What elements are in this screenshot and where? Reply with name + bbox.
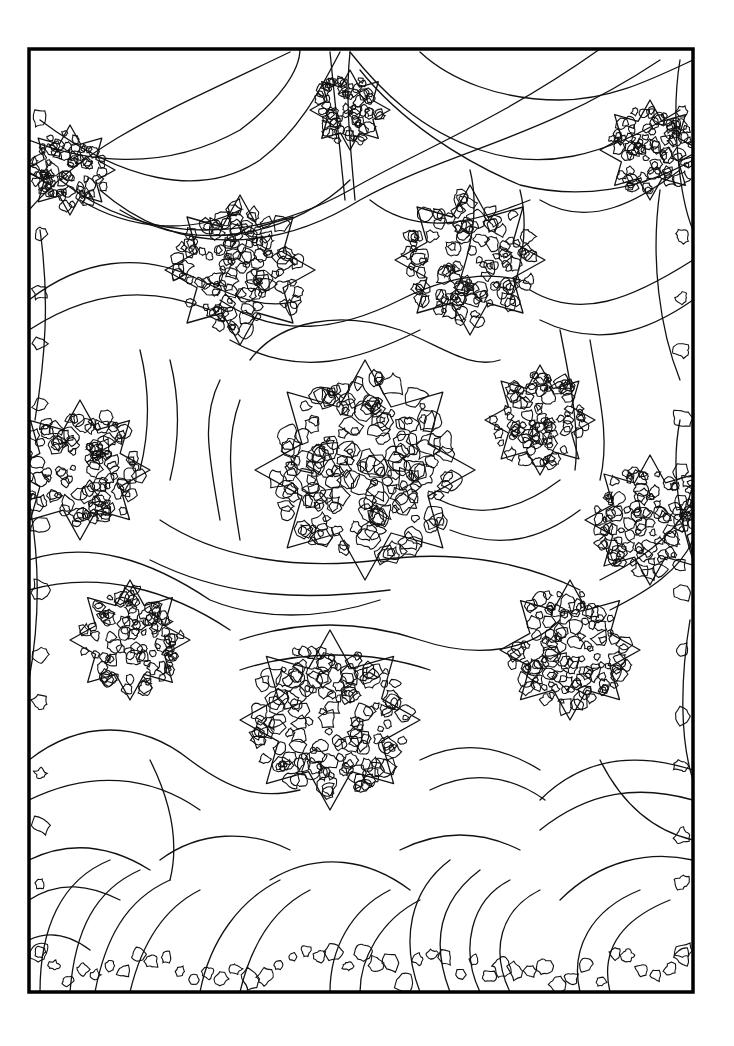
line-art-illustration (0, 0, 734, 1046)
middle-swags (29, 260, 693, 540)
pattern-group (10, 49, 715, 993)
bottom-swoops (29, 730, 693, 992)
star-clusters (10, 70, 715, 966)
coloring-page (0, 0, 734, 1046)
page-border-frame (29, 49, 693, 992)
